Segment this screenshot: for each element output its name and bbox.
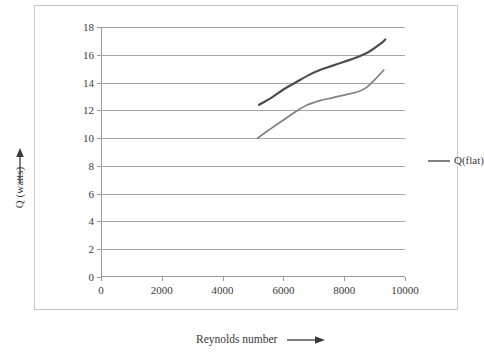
x-axis-title: Reynolds number — [196, 334, 277, 346]
series-lines — [101, 27, 405, 277]
x-tick-mark — [101, 277, 102, 281]
y-tick-label: 2 — [89, 244, 95, 255]
x-tick-label: 2000 — [151, 285, 173, 296]
y-tick-label: 18 — [83, 22, 94, 33]
y-tick-label: 10 — [83, 133, 94, 144]
x-tick-mark — [405, 277, 406, 281]
y-tick-label: 14 — [83, 77, 94, 88]
legend-item-label: Q(flat) — [454, 155, 484, 166]
y-axis-title-group: Q (watts) — [4, 148, 34, 263]
x-tick-mark — [344, 277, 345, 281]
x-tick-mark — [283, 277, 284, 281]
y-tick-label: 0 — [89, 272, 95, 283]
plot-area: 024681012141618 0200040006000800010000 — [101, 27, 405, 277]
chart-frame: 024681012141618 0200040006000800010000 Q… — [34, 5, 458, 310]
right-arrow-icon — [287, 335, 325, 345]
x-tick-label: 6000 — [272, 285, 294, 296]
series-line — [259, 40, 385, 105]
y-axis-title: Q (watts) — [14, 145, 25, 231]
y-tick-label: 8 — [89, 160, 95, 171]
x-tick-label: 0 — [98, 285, 104, 296]
y-tick-label: 12 — [83, 105, 94, 116]
series-line — [258, 70, 384, 138]
x-tick-label: 10000 — [391, 285, 419, 296]
y-tick-label: 6 — [89, 188, 95, 199]
x-tick-mark — [162, 277, 163, 281]
legend-color-swatch — [428, 160, 450, 162]
x-tick-mark — [223, 277, 224, 281]
plot-inner: 024681012141618 0200040006000800010000 — [101, 27, 405, 277]
x-tick-label: 4000 — [212, 285, 234, 296]
y-tick-label: 4 — [89, 216, 95, 227]
x-tick-label: 8000 — [333, 285, 355, 296]
legend: Q(flat) — [428, 155, 484, 166]
y-tick-label: 16 — [83, 49, 94, 60]
x-axis-title-group: Reynolds number — [196, 334, 325, 346]
